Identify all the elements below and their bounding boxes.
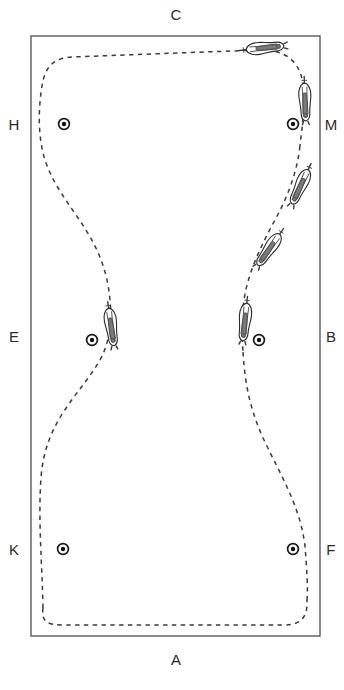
marker-inner-dot — [291, 547, 295, 551]
horse-right-upper-icon — [298, 76, 312, 125]
arena-letter-k: K — [9, 541, 19, 558]
marker-inner-dot — [291, 122, 295, 126]
arena-letter-a: A — [171, 651, 181, 668]
arena-marker-k-icon — [58, 544, 69, 555]
marker-inner-dot — [62, 122, 66, 126]
track-segment-left-loop — [39, 50, 258, 608]
arena-marker-e-icon — [87, 335, 98, 346]
ridden-track-group — [39, 50, 307, 625]
arena-letter-f: F — [326, 541, 335, 558]
marker-inner-dot — [61, 547, 65, 551]
arena-letters-group: CHMEBKFA — [8, 6, 337, 668]
arena-letter-b: B — [326, 328, 336, 345]
marker-inner-dot — [257, 338, 261, 342]
horse-right-mid-icon — [285, 161, 316, 210]
arena-marker-h-icon — [59, 119, 70, 130]
track-segment-lower-right — [243, 352, 307, 600]
arena-letter-e: E — [9, 328, 19, 345]
horse-top-icon — [239, 39, 288, 56]
arena-letter-m: M — [325, 116, 338, 133]
arena-boundary-rectangle — [31, 36, 320, 636]
horse-figures-group — [102, 39, 317, 350]
arena-marker-m-icon — [288, 119, 299, 130]
arena-diagram-svg: CHMEBKFA — [0, 0, 344, 690]
arena-letter-h: H — [8, 116, 19, 133]
track-segment-upper — [43, 600, 307, 625]
arena-marker-b-icon — [254, 335, 265, 346]
arena-marker-f-icon — [288, 544, 299, 555]
track-segment-top-right — [258, 50, 304, 146]
arena-markers-group — [58, 119, 299, 555]
horse-right-diag-icon — [251, 225, 289, 271]
arena-letter-c: C — [170, 6, 181, 23]
dressage-arena-figure: CHMEBKFA — [0, 0, 344, 690]
horse-b-icon — [236, 296, 253, 345]
marker-inner-dot — [90, 338, 94, 342]
